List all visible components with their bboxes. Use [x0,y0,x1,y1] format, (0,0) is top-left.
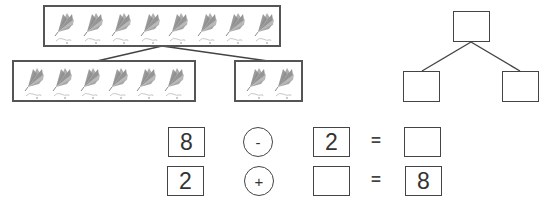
eq2-result-value: 8 [417,168,430,195]
fan-kite-icon [82,10,108,44]
fan-kite-icon [79,65,105,99]
fan-kite-icon [139,10,165,44]
eq1-operand-b[interactable]: 2 [313,127,350,157]
bond-part-right-box[interactable] [502,71,539,102]
fan-kite-icon [196,10,222,44]
plus-sign: + [255,173,264,190]
fan-kite-icon [53,10,79,44]
bond-whole-box[interactable] [453,11,490,42]
eq2-equals-sign: = [369,170,383,190]
eq1-operand-b-value: 2 [325,129,338,156]
fan-kite-icon [245,65,271,99]
eq1-operand-a-value: 8 [180,129,193,156]
eq2-result[interactable]: 8 [405,166,442,196]
eq1-equals-sign: = [369,131,383,151]
fan-kite-icon [110,10,136,44]
fan-kite-icon [163,65,189,99]
fan-kite-icon [273,65,299,99]
fan-kite-icon [23,65,49,99]
fan-kite-icon [135,65,161,99]
part-left-group-box [12,60,196,102]
eq1-result[interactable] [404,127,441,157]
fan-kite-icon [107,65,133,99]
fan-kite-icon [253,10,279,44]
eq2-operand-a[interactable]: 2 [167,166,204,196]
eq1-operator-minus: - [243,127,273,157]
minus-sign: - [256,134,261,151]
eq1-operand-a[interactable]: 8 [168,127,205,157]
fan-kite-icon [51,65,77,99]
eq2-operator-plus: + [244,166,274,196]
fan-kite-icon [167,10,193,44]
fan-kite-icon [224,10,250,44]
eq2-operand-a-value: 2 [179,168,192,195]
eq2-operand-b[interactable] [313,166,350,196]
whole-group-box [43,5,281,47]
part-right-group-box [234,60,303,102]
bond-part-left-box[interactable] [403,71,440,102]
